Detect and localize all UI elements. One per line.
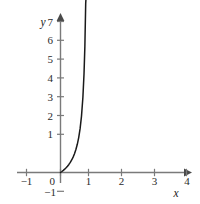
x-tick-label-3: 3	[152, 175, 158, 187]
x-axis-label: x	[172, 187, 179, 199]
y-tick-label-3: 3	[48, 91, 54, 103]
y-tick-label-1: 1	[48, 128, 54, 140]
chart-figure: 7 6 5 4 3 2 1 0 −1 −1 1 2 3 4 y x	[0, 0, 200, 204]
x-tick-label--1: −1	[21, 175, 33, 187]
y-tick-label-4: 4	[48, 72, 54, 84]
plot-canvas: 7 6 5 4 3 2 1 0 −1 −1 1 2 3 4 y x	[0, 0, 200, 204]
x-tick-label-1: 1	[86, 175, 92, 187]
y-axis-label: y	[39, 16, 46, 29]
y-tick-label--1: −1	[44, 186, 56, 198]
y-tick-label-7: 7	[48, 16, 54, 28]
function-curve	[61, 0, 88, 173]
y-tick-label-2: 2	[48, 110, 54, 122]
x-tick-label-4: 4	[184, 175, 190, 187]
x-tick-label-2: 2	[119, 175, 125, 187]
y-tick-label-6: 6	[48, 34, 54, 46]
y-axis-arrowhead	[57, 13, 65, 21]
y-tick-label-5: 5	[48, 53, 54, 65]
